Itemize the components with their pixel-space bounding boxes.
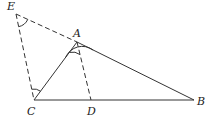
angle-arc-A-inner <box>69 52 80 55</box>
geometry-diagram: E A C D B <box>0 0 215 122</box>
angle-arc-C <box>32 89 41 91</box>
label-D: D <box>86 105 96 118</box>
label-E: E <box>6 0 15 13</box>
label-C: C <box>27 105 36 118</box>
label-A: A <box>72 27 81 40</box>
segment-EA <box>16 14 77 42</box>
label-B: B <box>196 95 205 108</box>
segment-AB <box>77 42 194 100</box>
angle-arc-E <box>19 19 28 26</box>
segment-AD <box>77 42 91 100</box>
